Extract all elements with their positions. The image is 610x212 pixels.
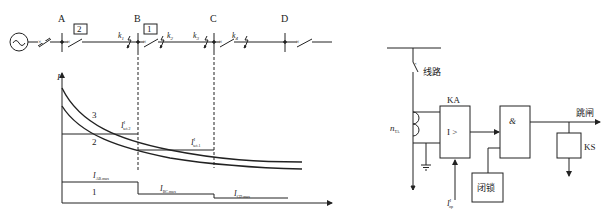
ground-icon [421,165,431,170]
svg-text:×: × [38,39,41,45]
relay-label-KA: KA [447,95,460,105]
svg-text:×: × [296,39,299,45]
sine-icon [13,41,25,46]
curve-label-3: 3 [92,110,97,120]
fault-label-k4: k4 [232,31,239,41]
breaker-D: × [296,39,312,47]
fault-label-k2: k2 [167,31,174,41]
signal-relay-label-KS: KS [584,142,596,152]
signal-relay-box [557,133,581,158]
current-plot [62,73,332,203]
diagram-canvas: × × × × × [0,0,610,212]
protection-label-2: 2 [77,24,82,34]
bus-label-A: A [58,13,66,24]
bus-label-C: C [210,13,217,24]
fault-label-k3: k3 [193,31,200,41]
breaker-C: × [219,39,234,47]
block-label: 闭锁 [477,182,495,193]
line-label: 线路 [423,66,441,77]
setting-label-1: IIset.1 [190,137,200,148]
ct-label: nTA [390,123,400,134]
setting-op-label: IIop [446,198,453,209]
bus-label-D: D [281,13,288,24]
relay-symbol: I > [447,127,457,137]
svg-text:×: × [143,39,146,45]
curve-label-1: 1 [92,187,97,197]
bus-label-B: B [134,13,141,24]
curve-3 [62,88,302,162]
protection-label-1: 1 [147,24,152,34]
load-label-AB: IAB.max [92,171,109,181]
breaker-A: × [67,39,82,47]
svg-text:×: × [414,61,417,66]
setting-label-2: IIset.2 [120,120,130,131]
down-arrow-icon [411,186,415,190]
block-signal-line [488,148,500,173]
current-transformer-icon [413,112,419,136]
load-label-BC: IBC.max [159,184,176,194]
and-gate-box [500,106,530,158]
load-label-CD: ICD.max [233,189,250,199]
and-symbol: & [509,116,516,126]
y-axis-label: I [56,72,61,82]
svg-text:×: × [219,39,222,45]
svg-text:×: × [67,39,70,45]
trip-label: 跳闸 [576,107,594,118]
breaker-source: × [38,38,51,47]
protection-logic-diagram: × [387,48,600,202]
curve-label-2: 2 [92,137,97,147]
breaker-B: × [143,39,158,47]
generator-source-icon [10,33,28,51]
fault-label-k1: k1 [118,31,124,41]
curve-2 [62,106,302,169]
